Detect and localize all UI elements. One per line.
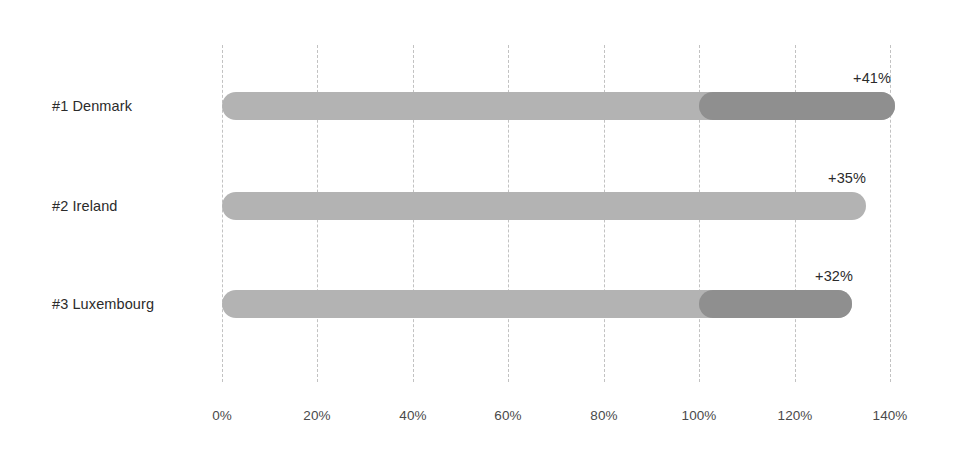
bar-luxembourg[interactable] (222, 290, 852, 318)
xtick-label-80: 80% (590, 408, 617, 423)
category-label-ireland: #2 Ireland (52, 198, 212, 214)
value-label-luxembourg: +32% (815, 268, 853, 284)
category-label-luxembourg: #3 Luxembourg (52, 296, 212, 312)
xtick-label-100: 100% (682, 408, 717, 423)
value-label-ireland: +35% (828, 170, 866, 186)
xtick-label-20: 20% (303, 408, 330, 423)
bar-chart: #1 Denmark #2 Ireland #3 Luxembourg +41%… (0, 0, 961, 459)
xtick-label-140: 140% (873, 408, 908, 423)
xtick-label-0: 0% (212, 408, 232, 423)
bar-denmark-overflow (699, 92, 895, 120)
bar-luxembourg-overflow (699, 290, 852, 318)
category-label-denmark: #1 Denmark (52, 98, 212, 114)
value-label-denmark: +41% (853, 70, 891, 86)
xtick-label-120: 120% (778, 408, 813, 423)
bar-ireland[interactable] (222, 192, 866, 220)
xtick-label-40: 40% (399, 408, 426, 423)
xtick-label-60: 60% (494, 408, 521, 423)
bar-ireland-base (222, 192, 866, 220)
bar-denmark[interactable] (222, 92, 895, 120)
